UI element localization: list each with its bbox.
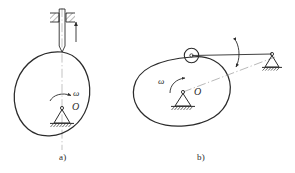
figure-canvas: ω O <box>0 0 295 173</box>
diagram-svg: ω O <box>0 0 295 173</box>
panel-b-omega-label: ω <box>158 76 164 86</box>
panel-b-group: ω O <box>133 41 282 126</box>
panel-a-group: ω O <box>14 8 89 150</box>
panel-b-oscillation-arrow <box>236 41 239 67</box>
panel-a-guide-left <box>50 13 59 22</box>
panel-b-cam-pivot-support <box>171 90 195 110</box>
panel-a-caption: a) <box>59 152 66 162</box>
panel-b-rocker-arm <box>192 54 272 56</box>
panel-a-omega-label: ω <box>73 88 79 98</box>
panel-b-caption: b) <box>197 152 205 162</box>
panel-b-pivot-label: O <box>194 86 201 97</box>
panel-a-guide-right <box>66 13 75 22</box>
panel-a-omega-arrow <box>50 94 71 101</box>
panel-a-pivot-label: O <box>72 101 79 112</box>
panel-b-right-pivot-support <box>262 52 282 70</box>
